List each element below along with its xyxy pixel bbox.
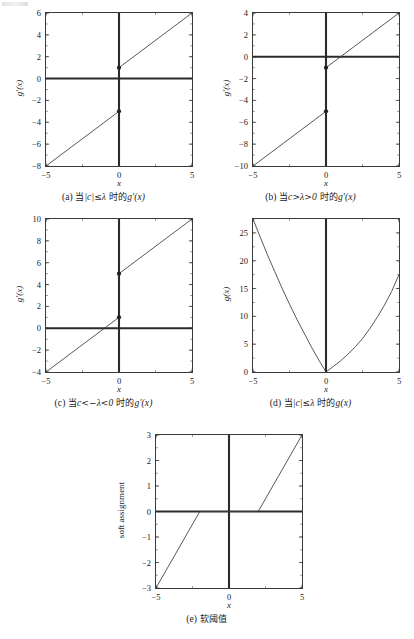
panel-d-y-tick-label: 15	[207, 284, 248, 294]
panel-b-y-tick-label: −10	[207, 161, 248, 171]
panel-b-axes-frame	[252, 12, 400, 167]
panel-d-axes-frame	[252, 218, 400, 373]
panel-c-y-tick-label: 4	[0, 280, 41, 290]
panel-a-y-tick-label: 4	[0, 30, 41, 40]
panel-c-caption-part: (c)	[55, 398, 68, 408]
panel-b-y-tick-label: −2	[207, 74, 248, 84]
panel-e-caption-part: 软阈值	[200, 614, 227, 624]
panel-e-caption: (e) 软阈值	[103, 612, 310, 625]
panel-a-x-tick-label: 0	[117, 170, 121, 180]
panel-a-caption-part: 当	[75, 192, 84, 202]
panel-a: g'(x) x (a) 当|c|≤λ 时的g′(x) 6420−2−4−6−8−…	[0, 4, 207, 206]
panel-a-caption-part: 时的	[106, 192, 127, 202]
figure-sheet: g'(x) x (a) 当|c|≤λ 时的g′(x) 6420−2−4−6−8−…	[0, 0, 414, 639]
panel-c: g'(x) x (c) 当c<−λ<0 时的g′(x) 1086420−2−4−…	[0, 210, 207, 412]
panel-a-y-tick-label: 6	[0, 8, 41, 18]
panel-a-y-tick-label: 0	[0, 74, 41, 84]
panel-b-y-tick-label: −4	[207, 95, 248, 105]
panel-b-caption-part: g′(x)	[338, 192, 356, 202]
panel-b-y-tick-label: 2	[207, 30, 248, 40]
panel-a-x-tick-label: 5	[190, 170, 194, 180]
panel-e-y-tick-label: −2	[103, 558, 151, 568]
panel-d-caption-part: ≤	[302, 398, 310, 408]
panel-d-y-tick-label: 0	[207, 367, 248, 377]
panel-b-caption-part: (b)	[265, 192, 279, 202]
panel-b-x-tick-label: 0	[324, 170, 328, 180]
panel-a-y-tick-label: 2	[0, 52, 41, 62]
panel-d-y-tick-label: 10	[207, 311, 248, 321]
panel-d-y-tick-label: 5	[207, 339, 248, 349]
panel-d-y-tick-label: 20	[207, 256, 248, 266]
panel-c-caption-part: 当	[68, 398, 77, 408]
panel-e-axes-frame	[155, 434, 303, 589]
panel-d-y-tick-label: 25	[207, 228, 248, 238]
panel-c-y-tick-label: 0	[0, 323, 41, 333]
panel-e-y-tick-label: 2	[103, 456, 151, 466]
panel-b-caption-part: >	[292, 192, 300, 202]
panel-c-caption-part: <−	[81, 398, 96, 408]
panel-d-caption: (d) 当|c|≤λ 时的g(x)	[207, 396, 414, 409]
panel-d-plot-area	[252, 218, 400, 373]
panel-c-caption-part: g′(x)	[135, 398, 153, 408]
panel-d-x-tick-label: 5	[397, 376, 401, 386]
panel-a-x-tick-label: −5	[41, 170, 50, 180]
panel-c-y-tick-label: −2	[0, 345, 41, 355]
panel-a-y-tick-label: −8	[0, 161, 41, 171]
panel-b-y-tick-label: 0	[207, 52, 248, 62]
panel-b-caption-part: >	[304, 192, 312, 202]
panel-a-y-tick-label: −4	[0, 117, 41, 127]
panel-b-x-tick-label: 5	[397, 170, 401, 180]
panel-c-y-tick-label: 10	[0, 214, 41, 224]
panel-b-y-tick-label: −6	[207, 117, 248, 127]
panel-d-caption-part: (d)	[270, 398, 284, 408]
panel-b: g'(x) x (b) 当c>λ>0 时的g′(x) 420−2−4−6−8−1…	[207, 4, 414, 206]
panel-d-chart-svg	[253, 219, 399, 372]
panel-d-x-tick-label: 0	[324, 376, 328, 386]
panel-e: soft assignment x (e) 软阈值 3210−1−2−3−505	[103, 428, 310, 634]
panel-a-caption: (a) 当|c|≤λ 时的g′(x)	[0, 190, 207, 203]
panel-c-caption: (c) 当c<−λ<0 时的g′(x)	[0, 396, 207, 409]
panel-a-chart-svg	[46, 13, 192, 166]
panel-c-plot-area	[45, 218, 193, 373]
panel-b-caption-part: 时的	[317, 192, 338, 202]
panel-c-x-tick-label: 5	[190, 376, 194, 386]
panel-b-plot-area	[252, 12, 400, 167]
panel-e-y-tick-label: 1	[103, 481, 151, 491]
panel-e-caption-part: (e)	[186, 614, 199, 624]
panel-a-caption-part: g′(x)	[127, 192, 145, 202]
panel-c-y-tick-label: 8	[0, 236, 41, 246]
panel-e-y-tick-label: −1	[103, 532, 151, 542]
panel-c-chart-svg	[46, 219, 192, 372]
panel-b-caption: (b) 当c>λ>0 时的g′(x)	[207, 190, 414, 203]
panel-b-y-tick-label: 4	[207, 8, 248, 18]
panel-a-caption-part: |c|	[84, 192, 94, 202]
panel-a-caption-part: ≤	[94, 192, 102, 202]
panel-c-y-tick-label: −4	[0, 367, 41, 377]
panel-c-y-tick-label: 2	[0, 301, 41, 311]
panel-e-y-tick-label: 0	[103, 507, 151, 517]
panel-c-caption-part: 时的	[113, 398, 134, 408]
panel-c-y-tick-label: 6	[0, 258, 41, 268]
panel-a-axes-frame	[45, 12, 193, 167]
panel-c-x-tick-label: 0	[117, 376, 121, 386]
panel-a-plot-area	[45, 12, 193, 167]
panel-a-caption-part: (a)	[62, 192, 75, 202]
panel-b-x-tick-label: −5	[248, 170, 257, 180]
panel-a-y-tick-label: −2	[0, 95, 41, 105]
panel-d-caption-part: 时的	[314, 398, 335, 408]
panel-c-x-tick-label: −5	[41, 376, 50, 386]
panel-e-y-tick-label: −3	[103, 583, 151, 593]
panel-a-y-tick-label: −6	[0, 139, 41, 149]
panel-e-x-tick-label: −5	[151, 592, 160, 602]
panel-d-caption-part: g(x)	[336, 398, 352, 408]
panel-c-axes-frame	[45, 218, 193, 373]
panel-c-caption-part: <	[101, 398, 109, 408]
panel-d-caption-part: 当	[284, 398, 293, 408]
panel-e-x-tick-label: 5	[300, 592, 304, 602]
panel-e-x-tick-label: 0	[227, 592, 231, 602]
panel-b-y-tick-label: −8	[207, 139, 248, 149]
panel-e-y-tick-label: 3	[103, 430, 151, 440]
panel-d-x-tick-label: −5	[248, 376, 257, 386]
panel-b-chart-svg	[253, 13, 399, 166]
panel-e-plot-area	[155, 434, 303, 589]
